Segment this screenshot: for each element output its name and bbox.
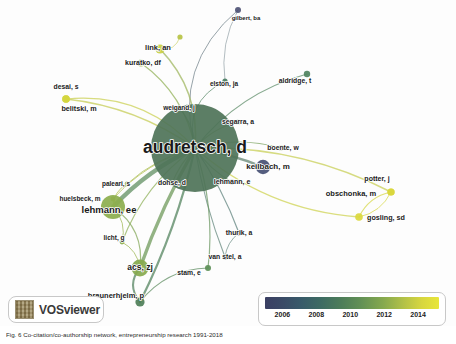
network-node-label-acs_zj: acs, zj [127, 262, 153, 272]
colorbar-tick-2008: 2008 [309, 311, 325, 318]
network-node-gilbert_ba[interactable] [235, 7, 241, 13]
year-colorbar-legend: 20062008201020122014 [258, 292, 446, 326]
network-node-link_sat[interactable] [177, 34, 182, 39]
network-node-label-licht_g: licht, g [104, 234, 125, 242]
colorbar-tick-2006: 2006 [275, 311, 291, 318]
network-node-label-gilbert_ba: gilbert, ba [232, 15, 261, 21]
network-node-label-gosling_sd: gosling, sd [367, 213, 405, 222]
network-node-label-keilbach_m: keilbach, m [246, 162, 290, 171]
network-node-label-thurik_a: thurik, a [226, 229, 253, 237]
network-node-label-segarra_a: segarra, a [222, 118, 254, 126]
network-node-label-potter_j: potter, j [364, 175, 389, 183]
colorbar-tick-2010: 2010 [342, 311, 358, 318]
colorbar-tick-2014: 2014 [410, 311, 426, 318]
network-node-label-stam_e: stam, e [177, 269, 201, 277]
network-node-label-elston_ja: elston, ja [210, 80, 239, 88]
network-node-label-van_stel_a: van stel, a [209, 253, 242, 261]
network-node-label-weigand_j: weigand, j [162, 104, 195, 112]
network-node-label-desai_s: desai, s [54, 83, 79, 91]
vosviewer-logo-box[interactable]: VOSviewer [8, 296, 104, 323]
network-node-belitski_m[interactable] [62, 95, 70, 103]
network-visualization[interactable]: audretsch, dgilbert, balink, ankuratko, … [0, 0, 456, 326]
network-node-label-kuratko_df: kuratko, df [125, 59, 161, 67]
colorbar-tick-labels: 20062008201020122014 [265, 309, 439, 323]
network-node-label-link_an: link, an [145, 43, 171, 52]
network-graph-svg[interactable]: audretsch, dgilbert, balink, ankuratko, … [0, 0, 456, 326]
network-node-label-obschonka_m: obschonka, m [326, 189, 377, 198]
network-node-label-aldridge_t: aldridge, t [279, 77, 312, 85]
network-node-label-dohse_d: dohse, d [158, 179, 186, 187]
colorbar-tick-2012: 2012 [376, 311, 392, 318]
network-node-label-audretsch_d: audretsch, d [143, 137, 247, 157]
network-node-label-lehmann_e: lehmann, e [214, 178, 251, 186]
colorbar-gradient [265, 297, 439, 309]
vosviewer-logo-label: VOSviewer [39, 303, 100, 317]
nodes-layer [62, 7, 394, 307]
network-node-label-paleari_s: paleari, s [102, 180, 131, 188]
network-node-label-lehmann_ee: lehmann, ee [82, 204, 137, 215]
figure-caption: Fig. 6 Co-citation/co-authorship network… [6, 331, 452, 339]
vosviewer-logo-icon [15, 300, 34, 319]
network-node-label-boente_w: boente, w [267, 144, 299, 152]
network-node-gosling_sd[interactable] [355, 213, 363, 221]
network-node-obschonka_m[interactable] [387, 188, 394, 195]
network-node-stam_e[interactable] [205, 265, 211, 271]
network-node-label-huelsbeck_m: huelsbeck, m [59, 195, 100, 203]
network-node-label-belitski_m: belitski, m [61, 104, 96, 113]
